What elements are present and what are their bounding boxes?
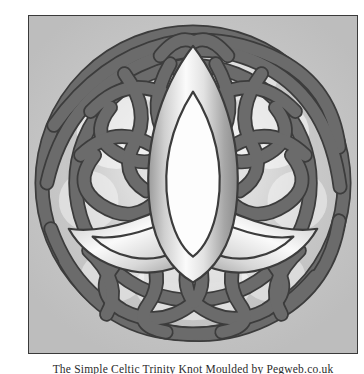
celtic-trinity-knot-artwork: .rope-out { fill:none; stroke:#3c3c3c; s…: [29, 16, 357, 353]
document-page: .rope-out { fill:none; stroke:#3c3c3c; s…: [0, 0, 364, 374]
figure-frame: .rope-out { fill:none; stroke:#3c3c3c; s…: [28, 15, 358, 354]
figure-caption: The Simple Celtic Trinity Knot Moulded b…: [28, 363, 358, 374]
